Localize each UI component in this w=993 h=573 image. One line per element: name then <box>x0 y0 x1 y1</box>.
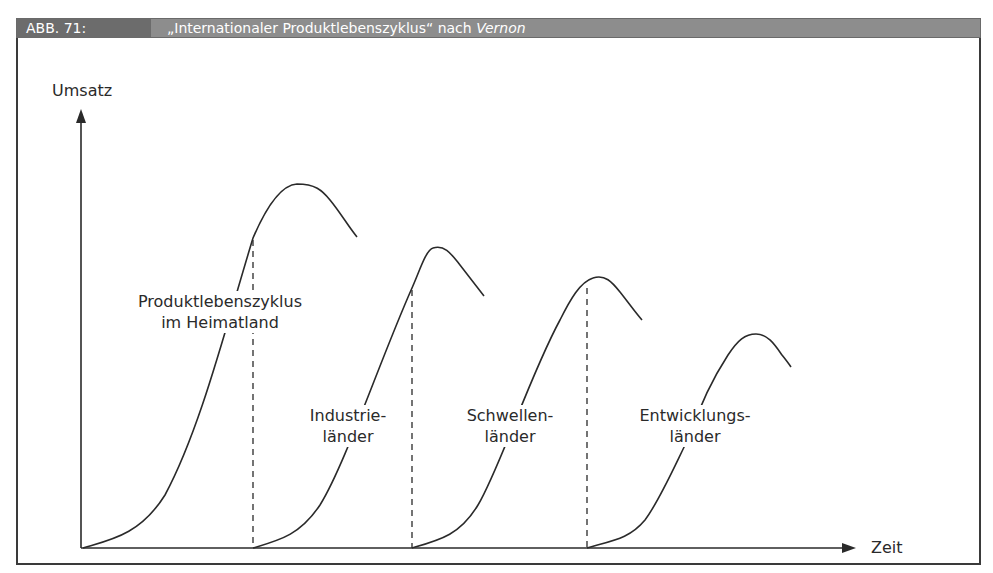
curve-label-schwellenlaender-line2: länder <box>460 426 560 447</box>
curve-label-heimatland-line2: im Heimatland <box>130 312 310 333</box>
curve-label-entwicklungslaender-line2: länder <box>630 426 760 447</box>
y-axis-label: Umsatz <box>52 80 112 101</box>
curve-heimatland <box>83 184 357 548</box>
x-axis-label: Zeit <box>871 537 903 558</box>
curve-label-industrielaender-line2: länder <box>303 426 393 447</box>
curve-label-industrielaender-line1: Industrie- <box>303 405 393 426</box>
curve-label-entwicklungslaender-line1: Entwicklungs- <box>630 405 760 426</box>
curve-label-industrielaender: Industrie- länder <box>303 405 393 447</box>
curve-label-heimatland: Produktlebenszyklus im Heimatland <box>130 291 310 333</box>
curve-label-schwellenlaender-line1: Schwellen- <box>460 405 560 426</box>
curve-label-heimatland-line1: Produktlebenszyklus <box>130 291 310 312</box>
x-axis-arrow-icon <box>842 543 856 553</box>
curve-label-schwellenlaender: Schwellen- länder <box>460 405 560 447</box>
curve-label-entwicklungslaender: Entwicklungs- länder <box>630 405 760 447</box>
plc-diagram <box>0 0 993 573</box>
y-axis-arrow-icon <box>76 109 86 123</box>
